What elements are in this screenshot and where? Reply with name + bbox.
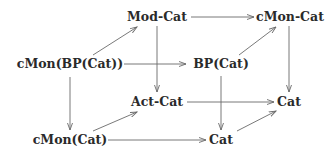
node-act-cat: Act-Cat [130, 94, 183, 109]
arrow-bpcat-to-cmoncat [239, 27, 276, 55]
arrow-cmoncat2-to-actcat [93, 112, 137, 131]
commutative-diagram: Mod-Cat cMon-Cat cMon(BP(Cat)) BP(Cat) A… [0, 0, 334, 149]
arrow-cmonbpcat-to-modcat [93, 27, 137, 55]
node-cat-bottom: Cat [209, 132, 233, 147]
arrow-cat_bottom-to-cat_right [237, 111, 276, 131]
node-bp-cat: BP(Cat) [193, 56, 249, 71]
node-mod-cat: Mod-Cat [127, 9, 187, 24]
node-cmon-bp-cat: cMon(BP(Cat)) [17, 56, 123, 71]
node-cat-right: Cat [277, 94, 301, 109]
node-cmon-cat-bottom: cMon(Cat) [33, 132, 108, 147]
node-cmon-cat: cMon-Cat [256, 9, 324, 24]
